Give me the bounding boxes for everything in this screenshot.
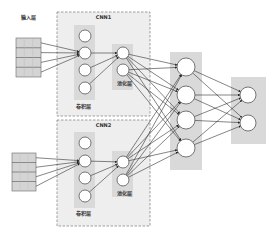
conv-neuron — [79, 64, 91, 76]
hidden-neuron — [177, 86, 195, 104]
pool-layer-label: 池化层 — [117, 80, 132, 87]
conv-neuron — [79, 30, 91, 42]
pool-neuron — [117, 47, 129, 59]
conv-neuron — [79, 172, 91, 184]
conv-layer-label: 卷积层 — [75, 210, 91, 217]
conv-neuron — [79, 190, 91, 202]
cnn-module-title: CNN2 — [96, 122, 112, 128]
cnn-module-box — [57, 120, 150, 226]
pool-neuron — [117, 156, 129, 168]
output-neuron — [240, 115, 256, 131]
conv-neuron — [79, 47, 91, 59]
output-neuron — [240, 87, 256, 103]
conv-layer-label: 卷积层 — [75, 103, 91, 110]
cnn-module-title: CNN1 — [96, 14, 112, 20]
pool-layer-label: 池化层 — [117, 190, 132, 197]
cnn-architecture-diagram: CNN1卷积层池化层CNN2卷积层池化层输入层 — [0, 0, 275, 241]
conv-neuron — [79, 155, 91, 167]
pool-neuron — [117, 174, 129, 186]
conv-neuron — [79, 137, 91, 149]
cnn-module-box — [57, 12, 150, 116]
hidden-neuron — [177, 111, 195, 129]
pool-neuron — [117, 64, 129, 76]
background-layer — [12, 12, 266, 226]
conv-neuron — [79, 82, 91, 94]
hidden-neuron — [177, 58, 195, 76]
hidden-neuron — [177, 139, 195, 157]
input-layer-label: 输入层 — [21, 14, 36, 21]
